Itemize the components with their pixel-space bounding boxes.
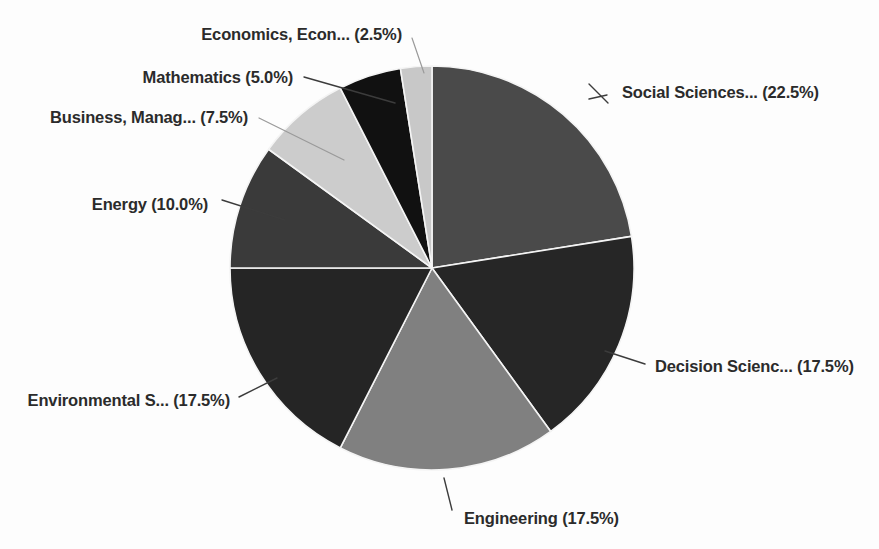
pie-label-decision-sciences: Decision Scienc... (17.5%) (655, 358, 854, 375)
pie-label-engineering: Engineering (17.5%) (464, 510, 619, 527)
pie-chart-figure: Social Sciences... (22.5%) Decision Scie… (0, 0, 879, 549)
pie-label-energy: Energy (10.0%) (80, 196, 208, 213)
pie-label-mathematics: Mathematics (5.0%) (130, 69, 293, 86)
pie-label-business-management: Business, Manag... (7.5%) (40, 109, 248, 126)
pie-label-economics: Economics, Econ... (2.5%) (190, 26, 402, 43)
pie-slices (230, 66, 634, 470)
leader-line-engineering (444, 478, 452, 510)
pie-label-environmental-sciences: Environmental S... (17.5%) (18, 392, 230, 409)
leader-line-social-sciences-hook (589, 84, 608, 103)
pie-label-social-sciences: Social Sciences... (22.5%) (622, 84, 819, 101)
